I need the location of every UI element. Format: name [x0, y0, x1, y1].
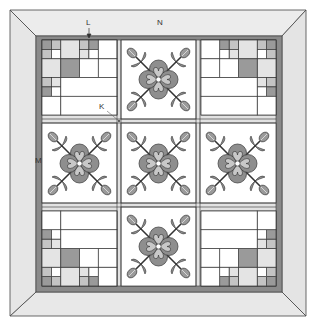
block-applique-middle-left [42, 123, 117, 203]
quilt-diagram [0, 0, 318, 330]
block-patchwork-bottom-left [42, 211, 117, 286]
block-patchwork-top-left [42, 40, 117, 115]
block-patchwork-bottom-right [201, 211, 276, 286]
block-patchwork-top-right [201, 40, 276, 115]
label-L: L [86, 18, 90, 27]
label-N: N [157, 18, 163, 27]
block-applique-middle-right [200, 123, 276, 203]
block-applique-bottom-center [121, 207, 196, 286]
block-applique-center [121, 123, 196, 203]
block-applique-top-center [121, 40, 196, 119]
label-K: K [99, 102, 104, 111]
label-M: M [35, 156, 42, 165]
